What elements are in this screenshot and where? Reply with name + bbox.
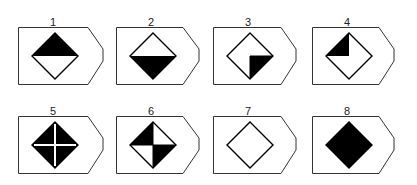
figure-6: 6 (116, 105, 202, 179)
figure-2: 2 (116, 16, 202, 90)
pentagon-frame-icon (116, 27, 204, 87)
pentagon-frame-icon (312, 116, 400, 176)
pentagon-frame-icon (213, 27, 301, 87)
pentagon-frame-icon (213, 116, 301, 176)
figure-8: 8 (312, 105, 398, 179)
pentagon-frame-icon (18, 27, 106, 87)
figure-7: 7 (213, 105, 299, 179)
figure-5: 5 (18, 105, 104, 179)
figure-4: 4 (312, 16, 398, 90)
figure-3: 3 (213, 16, 299, 90)
pentagon-frame-icon (18, 116, 106, 176)
pentagon-frame-icon (312, 27, 400, 87)
pentagon-frame-icon (116, 116, 204, 176)
figure-1: 1 (18, 16, 104, 90)
